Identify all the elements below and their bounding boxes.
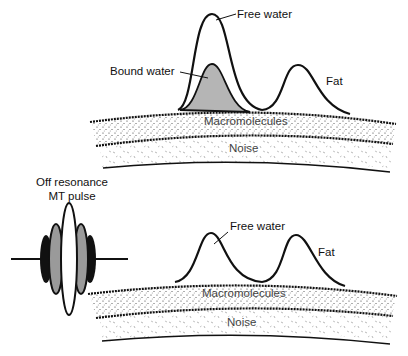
bound-water-label: Bound water bbox=[110, 66, 175, 78]
macromolecules-label: Macromolecules bbox=[204, 116, 288, 128]
fat-label-2: Fat bbox=[318, 247, 335, 259]
bottom-panel bbox=[11, 203, 397, 344]
free-water-label: Free water bbox=[237, 9, 292, 21]
free-water-label-2: Free water bbox=[230, 221, 285, 233]
pulse-label-line1: Off resonance bbox=[22, 177, 122, 189]
noise-label-2: Noise bbox=[227, 317, 256, 329]
macromolecules-label-2: Macromolecules bbox=[202, 288, 286, 300]
fat-peak bbox=[262, 65, 350, 114]
fat-label: Fat bbox=[326, 76, 343, 88]
fat-peak-2 bbox=[262, 235, 345, 286]
pulse-label-line2: MT pulse bbox=[22, 191, 122, 203]
noise-label: Noise bbox=[229, 143, 258, 155]
